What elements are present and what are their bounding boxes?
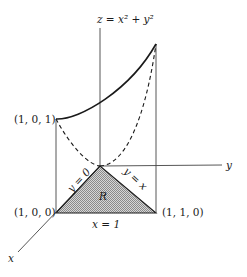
surface-region-diagram: z = x² + y² y x (1, 0, 1) (1, 0, 0) (1, … [0, 0, 247, 277]
point-label-110: (1, 1, 0) [162, 206, 204, 218]
point-label-100: (1, 0, 0) [14, 206, 56, 218]
surface-curve-x1 [56, 44, 156, 119]
region-label: R [98, 190, 107, 202]
surface-curve-y0 [56, 119, 100, 166]
surface-curve-yx [100, 44, 156, 166]
point-label-101: (1, 0, 1) [14, 113, 56, 125]
edge-label-x1: x = 1 [92, 218, 120, 230]
y-axis-label: y [225, 159, 233, 171]
y-axis [100, 165, 222, 166]
surface-equation-label: z = x² + y² [96, 13, 154, 25]
x-axis-label: x [8, 252, 14, 264]
